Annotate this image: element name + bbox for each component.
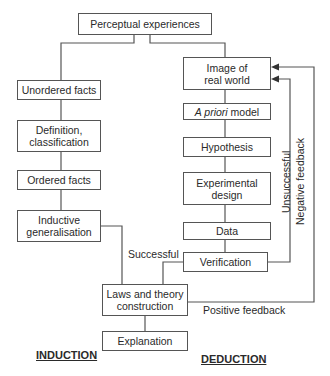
box-label: Perceptual experiences <box>90 18 200 30</box>
model-text: model <box>231 106 260 118</box>
box-verification: Verification <box>183 252 268 272</box>
arrowhead-positive <box>271 64 279 71</box>
a-priori-text: A priori <box>195 106 228 118</box>
edge-inductive-to-laws <box>101 226 122 284</box>
box-label: Inductive generalisation <box>24 214 94 238</box>
box-label: A priori model <box>195 106 259 118</box>
box-a-priori-model: A priori model <box>183 103 271 120</box>
label-negative-feedback: Negative feedback <box>294 138 306 225</box>
box-label: Data <box>216 225 238 237</box>
box-hypothesis: Hypothesis <box>183 137 271 157</box>
box-definition-classification: Definition, classification <box>17 120 101 152</box>
box-label: Unordered facts <box>22 84 97 96</box>
box-label: Verification <box>200 256 251 268</box>
label-unsuccessful: Unsuccessful <box>280 151 292 213</box>
box-label: Explanation <box>118 335 173 347</box>
box-ordered-facts: Ordered facts <box>17 170 101 190</box>
box-image-of-real-world: Image of real world <box>183 57 271 90</box>
box-label: Laws and theory construction <box>105 288 185 312</box>
label-successful: Successful <box>128 248 179 260</box>
box-label: Ordered facts <box>27 174 91 186</box>
box-label: Experimental design <box>192 177 262 201</box>
edge-top-to-image <box>150 35 225 57</box>
box-label: Image of real world <box>202 62 252 86</box>
edge-top-to-unordered <box>61 35 134 80</box>
box-label: Definition, classification <box>28 124 90 148</box>
edge-successful <box>163 262 183 284</box>
box-experimental-design: Experimental design <box>183 172 271 205</box>
heading-deduction: DEDUCTION <box>201 353 266 365</box>
box-perceptual-experiences: Perceptual experiences <box>78 13 212 35</box>
box-data: Data <box>183 222 271 240</box>
box-laws-and-theory-construction: Laws and theory construction <box>102 284 188 316</box>
box-unordered-facts: Unordered facts <box>17 80 101 100</box>
arrowhead-negative <box>271 76 279 83</box>
label-positive-feedback: Positive feedback <box>203 304 285 316</box>
box-explanation: Explanation <box>102 331 188 351</box>
box-label: Hypothesis <box>201 141 253 153</box>
box-inductive-generalisation: Inductive generalisation <box>17 210 101 242</box>
heading-induction: INDUCTION <box>36 349 97 361</box>
